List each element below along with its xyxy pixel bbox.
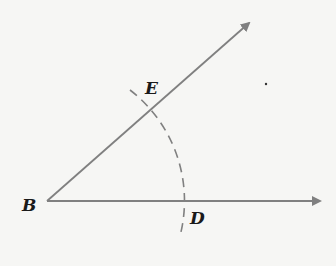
ray-be bbox=[47, 23, 249, 201]
angle-diagram: B E D bbox=[0, 0, 336, 266]
label-e: E bbox=[144, 78, 159, 98]
stray-mark bbox=[265, 83, 267, 85]
label-d: D bbox=[189, 208, 205, 228]
label-b: B bbox=[21, 195, 36, 215]
diagram-canvas: B E D bbox=[0, 0, 336, 266]
construction-arc bbox=[130, 90, 184, 236]
